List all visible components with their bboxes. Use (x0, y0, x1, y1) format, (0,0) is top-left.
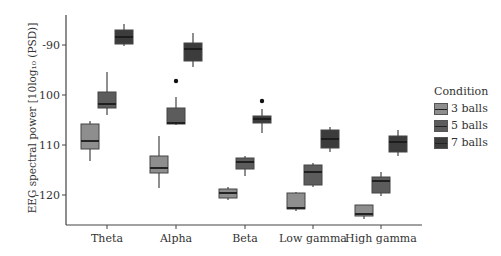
legend: Condition 3 balls 5 balls 7 balls (434, 85, 488, 151)
legend-item-3-balls: 3 balls (434, 100, 488, 117)
box-3-balls-beta (219, 187, 237, 200)
box (287, 193, 305, 209)
box (304, 165, 322, 185)
box-5-balls-low-gamma (304, 163, 322, 187)
box-3-balls-alpha (150, 136, 168, 188)
x-tick-label: High gamma (345, 232, 417, 245)
box (81, 124, 99, 149)
x-tick-label: Alpha (159, 232, 193, 245)
legend-item-7-balls: 7 balls (434, 134, 488, 151)
y-tick-label: 100 (39, 89, 60, 102)
plot-area (81, 24, 407, 219)
box-7-balls-beta (253, 99, 271, 133)
box-5-balls-theta (98, 72, 116, 115)
legend-swatch (434, 137, 448, 149)
x-tick-label: Theta (91, 232, 123, 245)
box (372, 177, 390, 193)
box-5-balls-high-gamma (372, 172, 390, 196)
box-5-balls-alpha (167, 79, 185, 125)
boxplot-chart: -90100110-120ThetaAlphaBetaLow gammaHigh… (0, 0, 501, 256)
box-3-balls-low-gamma (287, 192, 305, 211)
legend-label: 3 balls (451, 102, 488, 115)
y-tick-label: -90 (42, 39, 60, 52)
box (167, 108, 185, 124)
outlier-point (260, 99, 264, 103)
x-tick-label: Beta (232, 232, 258, 245)
box-7-balls-theta (115, 24, 133, 46)
box (98, 92, 116, 108)
y-tick-label: 110 (39, 139, 60, 152)
box (150, 156, 168, 173)
y-tick-label: -120 (35, 189, 60, 202)
box-3-balls-theta (81, 121, 99, 161)
legend-label: 7 balls (451, 136, 488, 149)
legend-label: 5 balls (451, 119, 488, 132)
legend-swatch (434, 120, 448, 132)
box-3-balls-high-gamma (355, 205, 373, 219)
legend-item-5-balls: 5 balls (434, 117, 488, 134)
box-5-balls-beta (236, 156, 254, 176)
box-7-balls-low-gamma (321, 127, 339, 152)
box (184, 43, 202, 61)
outlier-point (174, 79, 178, 83)
box-7-balls-high-gamma (389, 130, 407, 156)
x-tick-label: Low gamma (279, 232, 347, 245)
box (389, 136, 407, 152)
legend-swatch (434, 103, 448, 115)
box-7-balls-alpha (184, 33, 202, 67)
y-axis-label: EEG spectral power [10log₁₀ (PSD)] (26, 18, 38, 218)
box (236, 158, 254, 169)
legend-title: Condition (434, 85, 488, 98)
